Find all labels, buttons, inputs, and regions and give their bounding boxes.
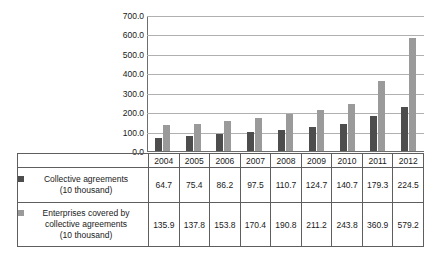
bar-group xyxy=(147,16,178,151)
x-axis-line xyxy=(147,151,424,152)
table-cell-value: 86.2 xyxy=(210,168,241,203)
bar-enterprises-covered-2009 xyxy=(317,110,324,151)
bar-group xyxy=(393,16,424,151)
table-cell-value: 110.7 xyxy=(271,168,302,203)
bar-collective-agreements-2004 xyxy=(155,138,162,151)
bar-collective-agreements-2005 xyxy=(186,136,193,151)
table-cell-value: 135.9 xyxy=(149,203,180,247)
bar-group xyxy=(301,16,332,151)
bar-enterprises-covered-2010 xyxy=(348,104,355,151)
table-row: Collective agreements(10 thousand)64.775… xyxy=(18,168,424,203)
y-axis-tick-label: 500.0 xyxy=(108,50,144,59)
table-cell-value: 360.9 xyxy=(362,203,393,247)
y-axis-tick-label: 300.0 xyxy=(108,89,144,98)
table-header-year: 2006 xyxy=(210,154,241,168)
series-a-swatch xyxy=(18,176,24,182)
bar-group xyxy=(270,16,301,151)
table-cell-value: 97.5 xyxy=(240,168,271,203)
legend-cell: Collective agreements(10 thousand) xyxy=(18,168,149,203)
bar-enterprises-covered-2005 xyxy=(194,124,201,151)
bar-group xyxy=(239,16,270,151)
data-table: 200420052006200720082009201020112012Coll… xyxy=(17,153,424,247)
bar-group xyxy=(362,16,393,151)
legend-label: Enterprises covered bycollective agreeme… xyxy=(28,208,148,241)
table-header-year: 2010 xyxy=(332,154,363,168)
bar-collective-agreements-2008 xyxy=(278,130,285,152)
bar-group xyxy=(332,16,363,151)
bar-enterprises-covered-2004 xyxy=(163,125,170,151)
y-axis-tick-label: 700.0 xyxy=(108,12,144,21)
table-body: 200420052006200720082009201020112012Coll… xyxy=(18,154,424,247)
table-header-year: 2011 xyxy=(362,154,393,168)
table-header-year: 2009 xyxy=(301,154,332,168)
table-row-years: 200420052006200720082009201020112012 xyxy=(18,154,424,168)
table-cell-value: 579.2 xyxy=(393,203,424,247)
table-cell-value: 190.8 xyxy=(271,203,302,247)
bar-enterprises-covered-2006 xyxy=(224,121,231,151)
bar-collective-agreements-2011 xyxy=(370,116,377,151)
series-b-swatch xyxy=(18,210,24,216)
y-axis-tick-labels: 700.0600.0500.0400.0300.0200.0100.00.0 xyxy=(108,16,144,152)
table-cell-value: 153.8 xyxy=(210,203,241,247)
table-header-year: 2005 xyxy=(179,154,210,168)
bar-collective-agreements-2010 xyxy=(340,124,347,151)
bar-group xyxy=(209,16,240,151)
table-cell-value: 64.7 xyxy=(149,168,180,203)
table-cell-value: 124.7 xyxy=(301,168,332,203)
legend-cell: Enterprises covered bycollective agreeme… xyxy=(18,203,149,247)
table-cell-value: 243.8 xyxy=(332,203,363,247)
bar-collective-agreements-2009 xyxy=(309,127,316,151)
table-header-year: 2004 xyxy=(149,154,180,168)
bar-group xyxy=(178,16,209,151)
table-cell-value: 140.7 xyxy=(332,168,363,203)
table-cell-value: 137.8 xyxy=(179,203,210,247)
y-axis-tick-label: 200.0 xyxy=(108,109,144,118)
y-axis-tick-label: 100.0 xyxy=(108,128,144,137)
legend-entry: Collective agreements(10 thousand) xyxy=(18,174,148,196)
bar-enterprises-covered-2011 xyxy=(378,81,385,151)
table-corner-cell xyxy=(18,154,149,168)
bar-collective-agreements-2006 xyxy=(216,134,223,151)
legend-entry: Enterprises covered bycollective agreeme… xyxy=(18,208,148,241)
legend-label: Collective agreements(10 thousand) xyxy=(28,174,148,196)
table-header-year: 2008 xyxy=(271,154,302,168)
table-cell-value: 75.4 xyxy=(179,168,210,203)
plot-canvas xyxy=(147,16,424,152)
table-header-year: 2007 xyxy=(240,154,271,168)
bar-enterprises-covered-2007 xyxy=(255,118,262,151)
plot-area: 700.0600.0500.0400.0300.0200.0100.00.0 xyxy=(0,0,439,160)
table-cell-value: 211.2 xyxy=(301,203,332,247)
y-axis-tick-label: 600.0 xyxy=(108,31,144,40)
table-header-year: 2012 xyxy=(393,154,424,168)
table-cell-value: 224.5 xyxy=(393,168,424,203)
bar-collective-agreements-2012 xyxy=(401,107,408,151)
chart-figure: 700.0600.0500.0400.0300.0200.0100.00.0 2… xyxy=(0,0,439,275)
table-cell-value: 179.3 xyxy=(362,168,393,203)
table-row: Enterprises covered bycollective agreeme… xyxy=(18,203,424,247)
y-axis-tick-label: 400.0 xyxy=(108,70,144,79)
table-cell-value: 170.4 xyxy=(240,203,271,247)
bar-enterprises-covered-2012 xyxy=(409,38,416,151)
bar-collective-agreements-2007 xyxy=(247,132,254,151)
bar-enterprises-covered-2008 xyxy=(286,114,293,151)
